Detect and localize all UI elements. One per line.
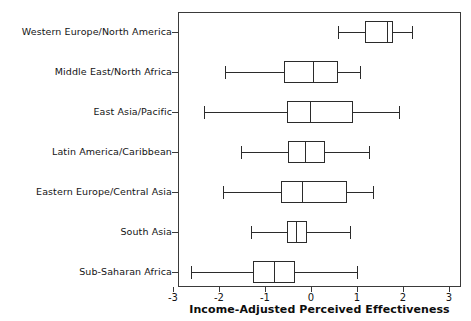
cap-high-6 — [357, 266, 358, 279]
whisker-high-line-6 — [295, 272, 357, 273]
x-tick-label-3: 0 — [298, 292, 324, 303]
x-tick-label-1: -2 — [206, 292, 232, 303]
x-tick-label-0: -3 — [160, 292, 186, 303]
median-line-6 — [274, 261, 275, 283]
box-plot-6 — [0, 0, 471, 321]
box-plot-figure: Western Europe/North AmericaMiddle East/… — [0, 0, 471, 321]
cap-low-6 — [191, 266, 192, 279]
whisker-low-line-6 — [191, 272, 253, 273]
x-tick-label-2: -1 — [252, 292, 278, 303]
x-tick-label-6: 3 — [436, 292, 462, 303]
x-tick-label-4: 1 — [344, 292, 370, 303]
x-axis-label: Income-Adjusted Perceived Effectiveness — [178, 303, 461, 316]
x-tick-label-5: 2 — [390, 292, 416, 303]
